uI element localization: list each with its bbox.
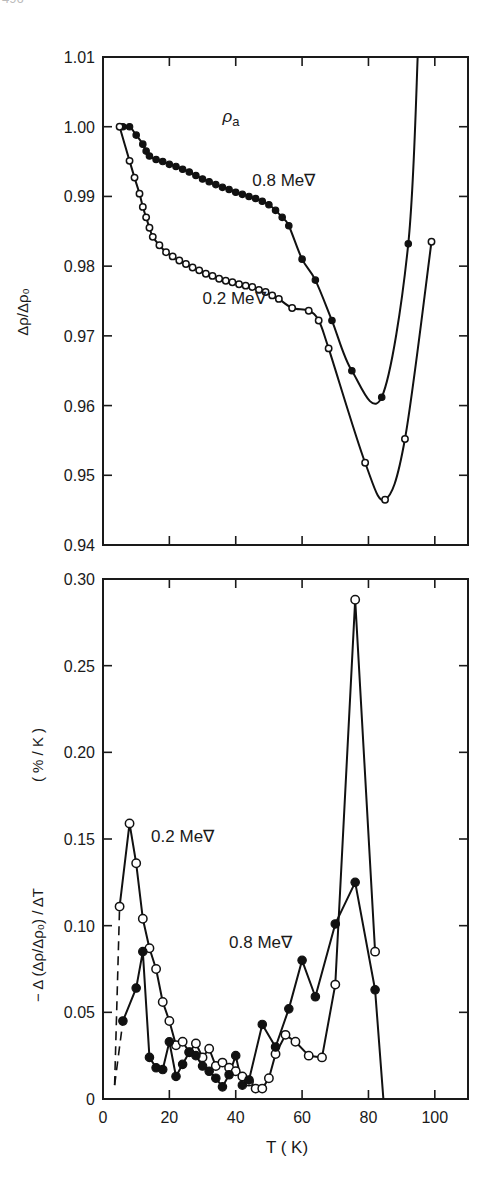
x-tick-label: 40 bbox=[227, 1109, 245, 1126]
filled-circle-marker bbox=[126, 124, 132, 130]
open-circle-marker bbox=[351, 596, 359, 604]
open-circle-marker bbox=[150, 234, 156, 240]
filled-circle-marker bbox=[193, 172, 199, 178]
open-circle-marker bbox=[229, 279, 235, 285]
filled-circle-marker bbox=[245, 1076, 253, 1084]
filled-circle-marker bbox=[232, 1051, 240, 1059]
filled-circle-marker bbox=[285, 1005, 293, 1013]
open-circle-marker bbox=[203, 271, 209, 277]
filled-circle-marker bbox=[173, 163, 179, 169]
open-circle-marker bbox=[223, 278, 229, 284]
filled-circle-marker bbox=[239, 191, 245, 197]
y-axis-title-bottom: − Δ (Δρ/Δρ₀) / ΔT bbox=[29, 888, 46, 1002]
data-layer bbox=[115, 600, 384, 1099]
open-circle-marker bbox=[115, 902, 123, 910]
filled-circle-marker bbox=[298, 956, 306, 964]
y-axis-title-top: Δρ/Δρ₀ bbox=[14, 288, 31, 336]
filled-circle-marker bbox=[186, 169, 192, 175]
plot-frame bbox=[103, 57, 468, 545]
y-tick-label: 0.97 bbox=[64, 328, 95, 345]
y-tick-label: 0.96 bbox=[64, 398, 95, 415]
filled-circle-marker bbox=[166, 161, 172, 167]
filled-circle-marker bbox=[312, 277, 318, 283]
filled-circle-marker bbox=[351, 878, 359, 886]
y-tick-label: 1.01 bbox=[64, 49, 95, 66]
filled-circle-marker bbox=[286, 223, 292, 229]
open-circle-marker bbox=[265, 1074, 273, 1082]
open-circle-marker bbox=[258, 1084, 266, 1092]
filled-circle-marker bbox=[160, 158, 166, 164]
filled-circle-marker bbox=[119, 1017, 127, 1025]
series-label: 0.8 Me∇ bbox=[229, 933, 293, 952]
open-circle-marker bbox=[325, 345, 331, 351]
figure: 0.940.950.960.970.980.991.001.010.8 Me∇0… bbox=[0, 0, 497, 1192]
filled-circle-marker bbox=[331, 920, 339, 928]
filled-circle-marker bbox=[206, 179, 212, 185]
open-circle-marker bbox=[189, 264, 195, 270]
filled-circle-marker bbox=[311, 993, 319, 1001]
filled-circle-marker bbox=[139, 947, 147, 955]
data-layer bbox=[120, 43, 432, 500]
y-tick-label: 0.05 bbox=[64, 1004, 95, 1021]
open-circle-marker bbox=[318, 1053, 326, 1061]
filled-circle-marker bbox=[145, 1053, 153, 1061]
filled-circle-marker bbox=[172, 1072, 180, 1080]
filled-circle-marker bbox=[140, 141, 146, 147]
open-circle-marker bbox=[169, 253, 175, 259]
x-tick-label: 0 bbox=[99, 1109, 108, 1126]
y-axis-units-bottom: ( % / K ) bbox=[29, 728, 46, 782]
y-tick-label: 0.10 bbox=[64, 918, 95, 935]
filled-circle-marker bbox=[259, 198, 265, 204]
open-circle-marker bbox=[152, 965, 160, 973]
open-circle-marker bbox=[143, 214, 149, 220]
filled-circle-marker bbox=[405, 241, 411, 247]
open-circle-marker bbox=[289, 305, 295, 311]
open-circle-marker bbox=[362, 460, 368, 466]
open-circle-marker bbox=[116, 124, 122, 130]
open-circle-marker bbox=[139, 915, 147, 923]
x-axis-title: T ( K) bbox=[266, 1138, 308, 1157]
open-circle-marker bbox=[156, 242, 162, 248]
open-circle-marker bbox=[205, 1045, 213, 1053]
series-curve bbox=[123, 43, 418, 404]
open-circle-marker bbox=[236, 281, 242, 287]
filled-circle-marker bbox=[153, 156, 159, 162]
open-circle-marker bbox=[306, 308, 312, 314]
filled-circle-marker bbox=[226, 186, 232, 192]
open-circle-marker bbox=[136, 190, 142, 196]
y-tick-label: 0.99 bbox=[64, 188, 95, 205]
bottom-plot-derivative: 02040608010000.050.100.150.200.250.300.2… bbox=[29, 571, 468, 1157]
rho-a-label: ρa bbox=[221, 107, 240, 129]
y-tick-label: 1.00 bbox=[64, 119, 95, 136]
filled-circle-marker bbox=[233, 189, 239, 195]
filled-circle-marker bbox=[205, 1067, 213, 1075]
filled-circle-marker bbox=[212, 1074, 220, 1082]
open-circle-marker bbox=[305, 1051, 313, 1059]
filled-circle-marker bbox=[218, 1083, 226, 1091]
open-circle-marker bbox=[131, 174, 137, 180]
filled-circle-marker bbox=[178, 1060, 186, 1068]
filled-circle-marker bbox=[379, 394, 385, 400]
filled-circle-marker bbox=[271, 1043, 279, 1051]
y-tick-label: 0.94 bbox=[64, 537, 95, 554]
top-plot-resistivity-ratio: 0.940.950.960.970.980.991.001.010.8 Me∇0… bbox=[14, 43, 468, 554]
filled-circle-marker bbox=[179, 166, 185, 172]
open-circle-marker bbox=[315, 317, 321, 323]
y-tick-label: 0.20 bbox=[64, 744, 95, 761]
open-circle-marker bbox=[402, 436, 408, 442]
filled-circle-marker bbox=[133, 132, 139, 138]
filled-circle-marker bbox=[219, 184, 225, 190]
open-circle-marker bbox=[291, 1038, 299, 1046]
filled-circle-marker bbox=[225, 1071, 233, 1079]
x-tick-label: 60 bbox=[293, 1109, 311, 1126]
y-tick-label: 0.30 bbox=[64, 571, 95, 588]
y-tick-label: 0.15 bbox=[64, 831, 95, 848]
open-circle-marker bbox=[196, 267, 202, 273]
open-circle-marker bbox=[331, 980, 339, 988]
open-circle-marker bbox=[163, 249, 169, 255]
series-label: 0.8 Me∇ bbox=[252, 171, 316, 190]
y-tick-label: 0.95 bbox=[64, 467, 95, 484]
filled-circle-marker bbox=[159, 1065, 167, 1073]
open-circle-marker bbox=[216, 275, 222, 281]
dashed-extrapolation-line bbox=[115, 907, 120, 1086]
